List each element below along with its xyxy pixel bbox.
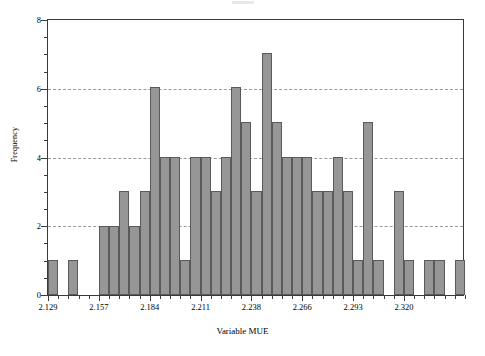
y-tick-minor xyxy=(44,209,48,210)
histogram-bar xyxy=(119,191,129,295)
x-tick-minor xyxy=(434,295,435,299)
y-tick-minor xyxy=(44,175,48,176)
x-tick-minor xyxy=(241,295,242,299)
x-tick-minor xyxy=(282,295,283,299)
histogram-bar xyxy=(221,157,231,296)
y-tick-major xyxy=(41,226,48,227)
y-tick-minor xyxy=(44,72,48,73)
x-tick-minor xyxy=(262,295,263,299)
x-tick-minor xyxy=(414,295,415,299)
x-axis-title: Variable MUE xyxy=(0,326,485,336)
x-tick-minor xyxy=(170,295,171,299)
histogram-bar xyxy=(282,157,292,296)
x-tick-label: 2.211 xyxy=(181,303,221,312)
histogram-bar xyxy=(251,191,261,295)
y-tick-label: 4 xyxy=(15,154,41,163)
histogram-bar xyxy=(109,226,119,295)
x-tick-major xyxy=(302,295,303,301)
histogram-bar xyxy=(434,260,444,295)
x-tick-label: 2.266 xyxy=(282,303,322,312)
x-tick-minor xyxy=(373,295,374,299)
x-tick-minor xyxy=(272,295,273,299)
y-tick-major xyxy=(41,89,48,90)
histogram-bar xyxy=(455,260,465,295)
histogram-bar xyxy=(323,191,333,295)
y-tick-minor xyxy=(44,278,48,279)
histogram-bar xyxy=(211,191,221,295)
x-tick-minor xyxy=(89,295,90,299)
histogram-bar xyxy=(302,157,312,296)
histogram-bar xyxy=(262,53,272,295)
x-tick-minor xyxy=(323,295,324,299)
y-tick-minor xyxy=(44,192,48,193)
y-tick-major xyxy=(41,295,48,296)
x-tick-label: 2.129 xyxy=(28,303,68,312)
x-tick-major xyxy=(150,295,151,301)
histogram-bar xyxy=(292,157,302,296)
x-tick-minor xyxy=(363,295,364,299)
x-tick-minor xyxy=(211,295,212,299)
x-tick-minor xyxy=(109,295,110,299)
x-tick-minor xyxy=(58,295,59,299)
x-tick-minor xyxy=(231,295,232,299)
x-tick-major xyxy=(251,295,252,301)
x-tick-major xyxy=(404,295,405,301)
x-tick-minor xyxy=(190,295,191,299)
histogram-bar xyxy=(231,87,241,295)
histogram-bar xyxy=(170,157,180,296)
x-tick-major xyxy=(48,295,49,301)
y-tick-label: 6 xyxy=(15,85,41,94)
histogram-bar xyxy=(201,157,211,296)
x-tick-label: 2.293 xyxy=(333,303,373,312)
histogram-bar xyxy=(160,157,170,296)
x-tick-minor xyxy=(333,295,334,299)
histogram-bar xyxy=(424,260,434,295)
x-tick-label: 2.238 xyxy=(231,303,271,312)
histogram-bar xyxy=(241,122,251,295)
x-tick-minor xyxy=(312,295,313,299)
histogram-bar xyxy=(373,260,383,295)
x-tick-minor xyxy=(119,295,120,299)
histogram-bar xyxy=(99,226,109,295)
x-tick-label: 2.320 xyxy=(384,303,424,312)
histogram-bar xyxy=(343,191,353,295)
x-tick-minor xyxy=(129,295,130,299)
y-tick-minor xyxy=(44,123,48,124)
x-tick-minor xyxy=(384,295,385,299)
bar-group xyxy=(48,20,463,295)
histogram-bar xyxy=(150,87,160,295)
histogram-bar xyxy=(48,260,58,295)
x-tick-minor xyxy=(68,295,69,299)
x-tick-major xyxy=(99,295,100,301)
x-tick-label: 2.184 xyxy=(130,303,170,312)
y-tick-minor xyxy=(44,37,48,38)
histogram-bar xyxy=(129,226,139,295)
x-tick-minor xyxy=(424,295,425,299)
histogram-bar xyxy=(312,191,322,295)
histogram-bar xyxy=(180,260,190,295)
y-tick-label: 2 xyxy=(15,222,41,231)
x-tick-minor xyxy=(445,295,446,299)
y-tick-label: 0 xyxy=(15,291,41,300)
x-tick-minor xyxy=(394,295,395,299)
histogram-bar xyxy=(353,260,363,295)
y-tick-major xyxy=(41,20,48,21)
histogram-chart: Frequency 02468 2.1292.1572.1842.2112.23… xyxy=(0,0,485,356)
y-tick-minor xyxy=(44,106,48,107)
x-tick-minor xyxy=(221,295,222,299)
histogram-bar xyxy=(272,122,282,295)
top-page-artifact xyxy=(232,1,254,4)
histogram-bar xyxy=(394,191,404,295)
y-tick-label: 8 xyxy=(15,16,41,25)
x-tick-minor xyxy=(465,295,466,299)
x-tick-label: 2.157 xyxy=(79,303,119,312)
x-tick-minor xyxy=(292,295,293,299)
x-tick-minor xyxy=(79,295,80,299)
y-tick-minor xyxy=(44,140,48,141)
histogram-bar xyxy=(404,260,414,295)
histogram-bar xyxy=(68,260,78,295)
x-tick-major xyxy=(201,295,202,301)
x-tick-minor xyxy=(343,295,344,299)
histogram-bar xyxy=(190,157,200,296)
y-axis-title: Frequency xyxy=(10,95,19,195)
